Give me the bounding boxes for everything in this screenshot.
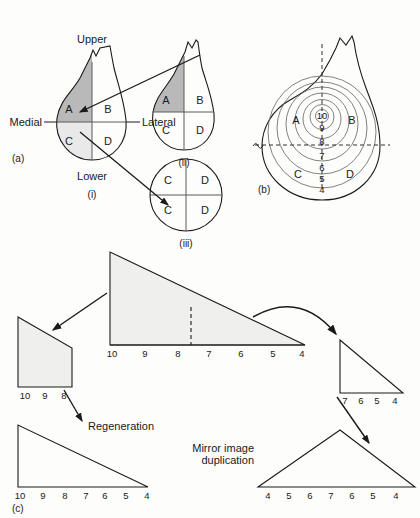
figure-canvas: A B C D Upper Lower Medial Lateral (i) A… (0, 0, 420, 518)
diagram-iii-quadrant-d-lower-label: D (201, 204, 209, 216)
regenerated-cone-tick-4: 4 (144, 490, 149, 501)
proximal-fragment-tick-10: 10 (20, 390, 31, 401)
regenerated-cone-tick-6: 6 (102, 490, 107, 501)
panel-b-id: (b) (258, 184, 270, 195)
intact-cone-tick-5: 5 (270, 348, 275, 359)
figure-root: A B C D Upper Lower Medial Lateral (i) A… (0, 0, 420, 518)
diagram-ii-quadrant-a-label: A (162, 94, 170, 106)
diagram-i-lower-label: Lower (77, 170, 107, 182)
diagram-ii-quadrant-d-label: D (196, 124, 204, 136)
mirror-cone-tick-4-right: 4 (393, 490, 398, 501)
regenerated-cone-tick-5: 5 (123, 490, 128, 501)
diagram-iii-id: (iii) (179, 238, 192, 249)
mirror-cone-tick-5-right: 5 (370, 490, 375, 501)
diagram-i-lateral-label: Lateral (142, 116, 176, 128)
mirror-label-line2: duplication (201, 454, 254, 466)
regenerated-cone-tick-8: 8 (62, 490, 67, 501)
panel-b-quadrant-a-label: A (292, 114, 300, 126)
diagram-i-medial-label: Medial (10, 116, 42, 128)
diagram-i-quadrant-d-label: D (104, 135, 112, 147)
diagram-iii-quadrant-c-upper-label: C (164, 174, 172, 186)
panel-c-id: (c) (12, 503, 24, 514)
diagram-i-upper-label: Upper (77, 33, 107, 45)
mirror-cone-tick-4-left: 4 (265, 490, 270, 501)
panel-a-id: (a) (12, 153, 24, 164)
diagram-i-quadrant-c-label: C (65, 135, 73, 147)
panel-b-quadrant-b-label: B (348, 114, 355, 126)
mirror-cone-tick-6-left: 6 (307, 490, 312, 501)
intact-cone-tick-8: 8 (175, 348, 180, 359)
intact-cone-tick-10: 10 (107, 348, 118, 359)
regeneration-label: Regeneration (88, 420, 154, 432)
diagram-i-quadrant-b-label: B (104, 103, 111, 115)
ring-label-6: 6 (319, 162, 324, 173)
intact-cone-tick-6: 6 (238, 348, 243, 359)
diagram-i-quadrant-a-label: A (65, 103, 73, 115)
diagram-ii-quadrant-b-label: B (196, 94, 203, 106)
regenerated-cone-tick-9: 9 (40, 490, 45, 501)
intact-cone-tick-4: 4 (299, 348, 304, 359)
ring-label-7: 7 (319, 150, 324, 161)
ring-label-8: 8 (319, 136, 324, 147)
ring-label-9: 9 (319, 122, 324, 133)
mirror-cone-tick-7: 7 (328, 490, 333, 501)
regenerated-cone-tick-7: 7 (83, 490, 88, 501)
distal-fragment-tick-4: 4 (392, 395, 397, 406)
distal-fragment-tick-5: 5 (374, 395, 379, 406)
diagram-iii-quadrant-c-lower-label: C (164, 204, 172, 216)
intact-cone-tick-9: 9 (142, 348, 147, 359)
diagram-i-id: (i) (88, 189, 97, 200)
figure-background (0, 0, 420, 518)
proximal-fragment-tick-9: 9 (42, 390, 47, 401)
ring-label-10: 10 (317, 110, 328, 121)
mirror-cone-tick-6-right: 6 (349, 490, 354, 501)
regenerated-cone-tick-10: 10 (15, 490, 26, 501)
panel-b-quadrant-d-label: D (346, 168, 354, 180)
mirror-label-line1: Mirror image (192, 442, 254, 454)
mirror-cone-tick-5-left: 5 (286, 490, 291, 501)
distal-fragment-tick-7: 7 (342, 395, 347, 406)
diagram-iii-quadrant-d-upper-label: D (201, 174, 209, 186)
distal-fragment-tick-6: 6 (358, 395, 363, 406)
proximal-fragment-tick-8: 8 (61, 390, 66, 401)
ring-label-4: 4 (319, 184, 324, 195)
intact-cone-tick-7: 7 (206, 348, 211, 359)
diagram-ii-quadrant-c-label: C (162, 124, 170, 136)
ring-label-5: 5 (319, 173, 324, 184)
panel-b-quadrant-c-label: C (294, 168, 302, 180)
